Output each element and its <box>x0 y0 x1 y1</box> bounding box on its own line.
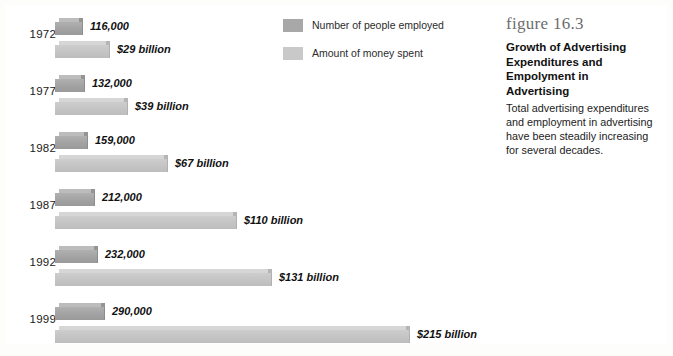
value-label-money-1987: $110 billion <box>244 214 303 226</box>
bar-front-face <box>55 102 128 115</box>
category-label-1977: 1977 <box>10 85 56 97</box>
value-label-money-1992: $131 billion <box>279 271 339 283</box>
value-label-employed-1972: 116,000 <box>90 20 129 32</box>
chart-legend: Number of people employed Amount of mone… <box>283 14 473 70</box>
bar-employed-1992 <box>55 246 98 263</box>
category-label-1992: 1992 <box>10 256 56 268</box>
bar-employed-1982 <box>55 132 88 149</box>
figure-caption-panel: figure 16.3 Growth of Advertising Expend… <box>506 14 654 157</box>
bar-employed-1977 <box>55 75 85 92</box>
bar-employed-1987 <box>55 189 95 206</box>
value-label-employed-1977: 132,000 <box>92 77 132 89</box>
bar-group-1999: 1999 290,000 $215 billion <box>0 295 480 352</box>
value-label-money-1999: $215 billion <box>417 328 477 340</box>
bar-front-face <box>55 136 88 149</box>
bar-group-1982: 1982 159,000 $67 billion <box>0 124 480 181</box>
figure-title: Growth of Advertising Expenditures and E… <box>506 40 654 98</box>
legend-label-employed: Number of people employed <box>312 19 444 31</box>
category-label-1987: 1987 <box>10 199 56 211</box>
bar-group-1977: 1977 132,000 $39 billion <box>0 67 480 124</box>
category-label-1972: 1972 <box>10 28 56 40</box>
bar-money-1972 <box>55 41 110 58</box>
bar-employed-1999 <box>55 303 105 320</box>
bar-employed-1972 <box>55 18 83 35</box>
value-label-employed-1999: 290,000 <box>112 305 152 317</box>
figure-number: figure 16.3 <box>506 14 654 34</box>
value-label-money-1977: $39 billion <box>135 100 189 112</box>
value-label-employed-1987: 212,000 <box>102 191 142 203</box>
bar-front-face <box>55 22 83 35</box>
bar-front-face <box>55 307 105 320</box>
legend-item-money: Amount of money spent <box>283 42 473 64</box>
bar-front-face <box>55 216 237 229</box>
bar-front-face <box>55 45 110 58</box>
bar-front-face <box>55 79 85 92</box>
bar-group-1987: 1987 212,000 $110 billion <box>0 181 480 238</box>
category-label-1999: 1999 <box>10 313 56 325</box>
bar-money-1987 <box>55 212 237 229</box>
legend-swatch-employed <box>283 19 303 32</box>
legend-label-money: Amount of money spent <box>312 47 423 59</box>
bar-front-face <box>55 330 410 343</box>
bar-money-1999 <box>55 326 410 343</box>
value-label-money-1972: $29 billion <box>117 43 171 55</box>
figure-16-3: 1972 116,000 $29 billion 1977 132,000 <box>0 0 673 356</box>
bar-money-1977 <box>55 98 128 115</box>
legend-swatch-money <box>283 47 303 60</box>
value-label-employed-1992: 232,000 <box>105 248 145 260</box>
bar-front-face <box>55 273 272 286</box>
legend-item-employed: Number of people employed <box>283 14 473 36</box>
bar-money-1992 <box>55 269 272 286</box>
bar-front-face <box>55 159 168 172</box>
value-label-employed-1982: 159,000 <box>95 134 135 146</box>
bar-group-1992: 1992 232,000 $131 billion <box>0 238 480 295</box>
bar-money-1982 <box>55 155 168 172</box>
bar-front-face <box>55 250 98 263</box>
value-label-money-1982: $67 billion <box>175 157 229 169</box>
figure-description: Total advertising expenditures and emplo… <box>506 101 654 157</box>
bar-front-face <box>55 193 95 206</box>
category-label-1982: 1982 <box>10 142 56 154</box>
